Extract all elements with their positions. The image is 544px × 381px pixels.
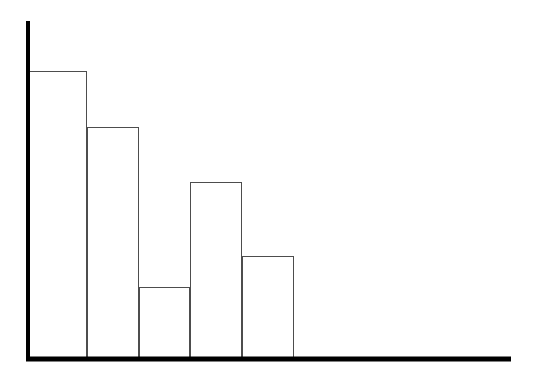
chart-canvas [0,0,544,381]
bar-2 [88,128,139,360]
bar-5 [243,257,294,360]
histogram-chart [0,0,544,381]
bar-3 [140,288,190,360]
bar-1 [30,72,87,360]
bar-4 [191,183,242,360]
